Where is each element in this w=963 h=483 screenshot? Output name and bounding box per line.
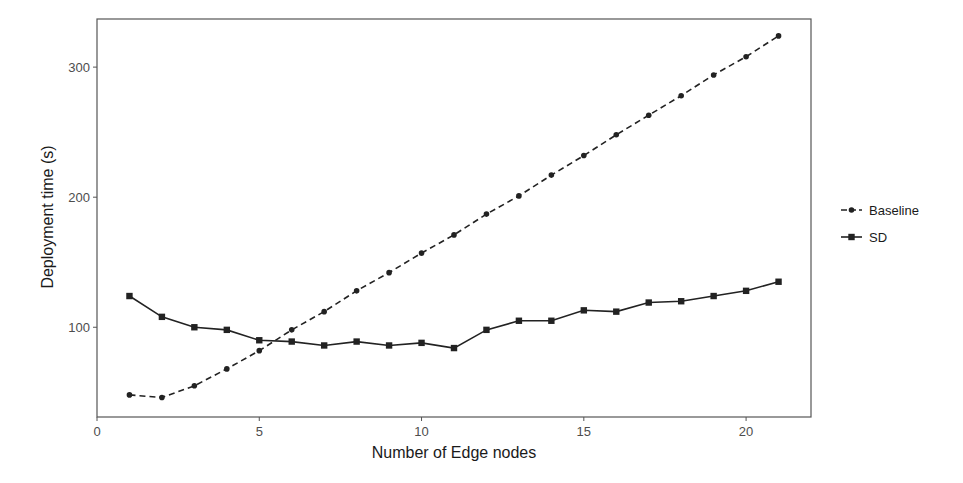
legend-item-baseline: Baseline xyxy=(841,203,919,218)
y-axis: 100200300 xyxy=(68,60,97,335)
data-point xyxy=(711,72,717,78)
data-point xyxy=(321,309,327,315)
data-point xyxy=(321,342,327,348)
data-point xyxy=(224,327,230,333)
data-point xyxy=(289,338,295,344)
data-point xyxy=(451,345,457,351)
x-tick-label: 20 xyxy=(739,424,753,439)
x-tick-label: 5 xyxy=(256,424,263,439)
data-point xyxy=(548,318,554,324)
data-point xyxy=(386,342,392,348)
data-point xyxy=(678,298,684,304)
legend-label: SD xyxy=(869,230,887,245)
data-point xyxy=(613,132,619,138)
square-marker-icon xyxy=(848,234,854,240)
y-tick-label: 100 xyxy=(68,320,90,335)
data-point xyxy=(289,327,295,333)
data-point xyxy=(549,172,555,178)
data-point xyxy=(256,337,262,343)
data-point xyxy=(418,340,424,346)
data-point xyxy=(581,307,587,313)
data-point xyxy=(159,395,165,401)
circle-marker-icon xyxy=(849,207,855,213)
data-point xyxy=(354,288,360,294)
y-tick-label: 300 xyxy=(68,60,90,75)
data-point xyxy=(743,288,749,294)
data-point xyxy=(516,318,522,324)
data-point xyxy=(776,33,782,39)
data-point xyxy=(775,279,781,285)
data-point xyxy=(678,93,684,99)
x-axis: 05101520 xyxy=(93,417,753,439)
line-chart: 100200300 05101520 Number of Edge nodes … xyxy=(0,0,963,483)
x-tick-label: 15 xyxy=(577,424,591,439)
data-point xyxy=(191,324,197,330)
x-tick-label: 10 xyxy=(414,424,428,439)
data-point xyxy=(353,338,359,344)
data-point xyxy=(484,211,490,217)
data-point xyxy=(483,327,489,333)
data-point xyxy=(516,193,522,199)
plot-panel xyxy=(97,19,811,417)
data-point xyxy=(224,366,230,372)
x-axis-title: Number of Edge nodes xyxy=(372,444,537,461)
data-point xyxy=(419,250,425,256)
data-point xyxy=(710,293,716,299)
data-point xyxy=(127,392,133,398)
data-point xyxy=(159,314,165,320)
legend-item-sd: SD xyxy=(841,230,887,245)
legend-label: Baseline xyxy=(869,203,919,218)
data-point xyxy=(386,270,392,276)
data-point xyxy=(581,153,587,159)
data-point xyxy=(646,112,652,118)
data-point xyxy=(256,348,262,354)
data-point xyxy=(451,232,457,238)
y-tick-label: 200 xyxy=(68,190,90,205)
data-point xyxy=(192,383,198,389)
legend: BaselineSD xyxy=(841,203,919,245)
data-point xyxy=(126,293,132,299)
y-axis-title: Deployment time (s) xyxy=(39,145,56,288)
x-tick-label: 0 xyxy=(93,424,100,439)
data-point xyxy=(743,54,749,60)
data-point xyxy=(613,308,619,314)
data-point xyxy=(646,299,652,305)
